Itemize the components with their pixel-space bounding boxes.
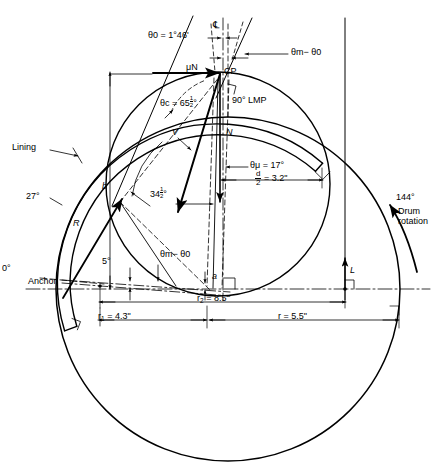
label-angle-34-half-pre: 34	[150, 189, 160, 199]
lining-outer-arc	[58, 124, 323, 331]
label-angle-27: 27°	[26, 192, 40, 201]
label-force-l: L	[350, 266, 355, 275]
label-angle-144: 144°	[396, 193, 415, 202]
force-l-right-angle	[345, 280, 354, 289]
label-90-lmp: 90° LMP	[232, 96, 267, 105]
shoe-radius-solid-1	[120, 202, 176, 286]
label-theta-c-degree: °	[193, 98, 197, 108]
label-theta-c-text: θc = 65	[160, 98, 190, 108]
label-force-v: V	[172, 128, 178, 137]
label-r1-symbol: r1	[98, 311, 105, 321]
label-d-over-2: d2 = 3.2"	[255, 170, 287, 188]
force-l-origin-dot	[343, 287, 347, 291]
shoe-circle	[106, 72, 330, 296]
label-cp: CP	[224, 67, 237, 76]
label-d-over-2-value: = 3.2"	[264, 173, 287, 183]
shoe-radius-dashed-2	[120, 202, 210, 290]
label-lining: Lining	[12, 143, 36, 152]
label-angle-0: 0°	[2, 264, 11, 273]
label-theta-0: θ0 = 1°46'	[148, 31, 189, 40]
theta-c-arrow	[165, 110, 173, 118]
diagram-canvas: ℄ θ0 = 1°46' θm− θ0 μN CP θc = 6512° 90°…	[0, 0, 445, 469]
cp-dashed-line-a	[207, 78, 214, 286]
right-angle-mark-cp	[228, 84, 236, 94]
label-anchor: Anchor	[28, 277, 57, 286]
label-theta-c: θc = 6512°	[160, 95, 197, 108]
lining-end-cap-left	[65, 326, 77, 331]
label-r: r = 5.5"	[278, 312, 307, 321]
lining-end-cap-right	[316, 163, 323, 171]
label-force-r: R	[73, 219, 80, 228]
angle-34half-leader-left	[131, 192, 150, 206]
label-dim-a: a	[212, 272, 217, 281]
label-mu-n: μN	[186, 63, 198, 72]
label-drum-rotation: Drum rotation	[398, 206, 428, 227]
fraction-d-2: d2	[255, 170, 261, 188]
label-r2: r2 = 8.5"	[197, 294, 230, 305]
theta-m-dashed-aux2	[211, 24, 215, 72]
label-r1: r1 = 4.3"	[98, 312, 131, 323]
diagram-vector-layer	[0, 0, 445, 469]
anchor-point	[98, 284, 101, 287]
label-angle-5: 5°	[102, 257, 111, 266]
angle-27-leader	[50, 198, 62, 205]
label-drum-rotation-line1: Drum	[398, 206, 420, 216]
label-centerline-symbol: ℄	[213, 20, 219, 30]
fraction-denominator-2: 2	[255, 179, 261, 187]
label-theta-m-minus-theta-0-bottom: θm− θ0	[160, 250, 190, 259]
lining-corner-mark-right	[315, 172, 330, 180]
label-dim-b: b	[102, 182, 107, 191]
label-theta-m-minus-theta-0-top: θm− θ0	[291, 48, 321, 57]
cp-solid-line-c	[213, 82, 218, 288]
right-angle-mark-center	[224, 278, 235, 289]
label-drum-rotation-line2: rotation	[398, 216, 428, 226]
label-angle-34-half-degree: °	[163, 189, 167, 199]
label-angle-34-half: 3412°	[150, 186, 167, 199]
theta-0-line	[112, 16, 193, 206]
force-v-leader	[178, 138, 191, 150]
label-force-n: N	[226, 128, 233, 137]
label-r2-symbol: r2	[197, 293, 204, 303]
lining-leader	[50, 150, 78, 156]
